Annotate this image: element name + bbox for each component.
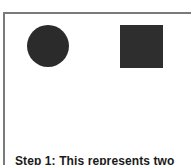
step-caption: Step 1: This represents two: [15, 154, 174, 165]
circle-shape: [27, 25, 69, 67]
square-shape: [120, 25, 163, 68]
